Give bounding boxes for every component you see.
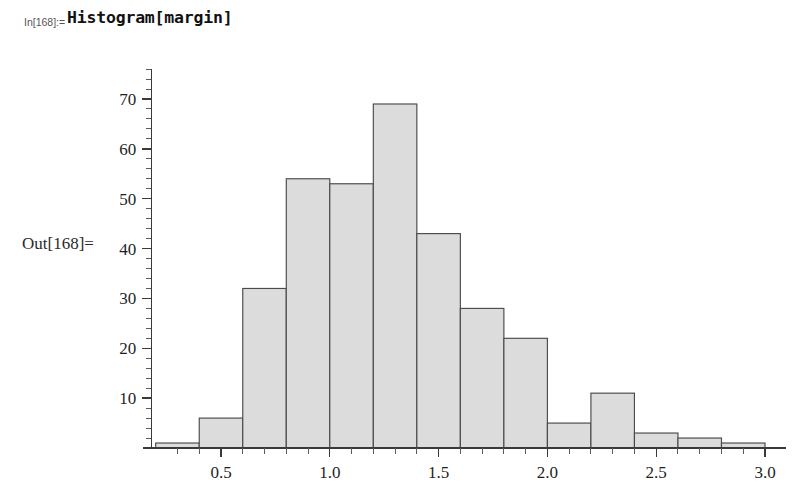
x-tick-label: 2.0 [537, 463, 558, 482]
x-tick-label: 1.5 [428, 463, 449, 482]
histogram-bar[interactable] [591, 393, 635, 448]
histogram-bar[interactable] [547, 423, 591, 448]
histogram-output-cell[interactable]: 0.51.01.52.02.53.010203040506070 [0, 0, 809, 501]
y-tick-label: 60 [119, 140, 136, 159]
histogram-bar[interactable] [460, 308, 504, 448]
histogram-bar[interactable] [417, 234, 461, 448]
x-tick-label: 2.5 [646, 463, 667, 482]
y-tick-label: 50 [119, 190, 136, 209]
histogram-bar[interactable] [504, 338, 548, 448]
histogram-bar[interactable] [243, 288, 287, 448]
y-tick-label: 40 [119, 240, 136, 259]
x-tick-label: 1.0 [319, 463, 340, 482]
histogram-bar[interactable] [373, 104, 417, 448]
histogram-bar[interactable] [156, 443, 200, 448]
histogram-bars-group [156, 104, 765, 448]
histogram-bar[interactable] [330, 184, 374, 448]
x-tick-label: 3.0 [754, 463, 775, 482]
histogram-bar[interactable] [199, 418, 243, 448]
histogram-svg: 0.51.01.52.02.53.010203040506070 [0, 0, 809, 501]
x-tick-label: 0.5 [210, 463, 231, 482]
y-tick-label: 30 [119, 289, 136, 308]
histogram-bar[interactable] [721, 443, 765, 448]
histogram-bar[interactable] [286, 179, 330, 448]
histogram-bar[interactable] [678, 438, 722, 448]
y-tick-label: 10 [119, 389, 136, 408]
y-tick-label: 70 [119, 90, 136, 109]
y-tick-label: 20 [119, 339, 136, 358]
histogram-bar[interactable] [634, 433, 678, 448]
